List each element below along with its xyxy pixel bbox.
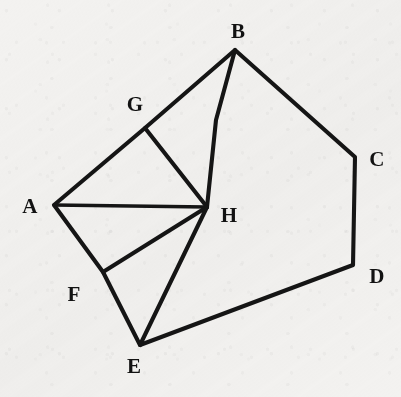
segment-a-h-path: [54, 205, 207, 207]
vertex-label-c: C: [369, 149, 384, 170]
vertex-label-h: H: [221, 205, 238, 226]
vertex-label-b: B: [231, 21, 245, 42]
vertex-label-g: G: [127, 94, 144, 115]
segment-g-h-path: [145, 128, 207, 207]
segment-b-h-path: [207, 50, 235, 207]
figure-canvas: [0, 0, 401, 397]
geometry-figure: A B C D E F G H: [0, 0, 401, 397]
polygon-outline-path: [54, 50, 355, 345]
vertex-label-d: D: [369, 266, 384, 287]
vertex-label-f: F: [67, 284, 80, 305]
vertex-label-a: A: [22, 196, 37, 217]
vertex-label-e: E: [127, 356, 141, 377]
